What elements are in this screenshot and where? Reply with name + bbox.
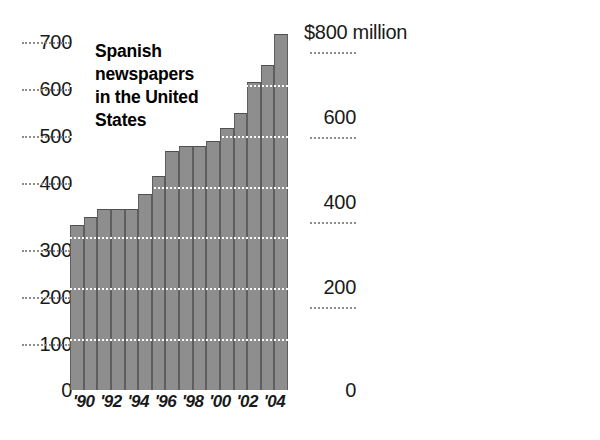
chart-title-line: newspapers [95,63,245,86]
bar [138,194,152,390]
x-axis-tick-label: '96 [152,392,179,412]
chart-title-line: Spanish [95,40,245,63]
y-axis-tick-label: 400 [186,191,356,214]
gridline-lead [22,344,70,346]
gridline [70,237,288,239]
bar [220,128,234,390]
bar [193,146,207,390]
gridline-lead [22,183,70,185]
gridline [70,187,288,189]
dual-bar-chart-figure: 700 600 500 400 300 200 100 0 Spanish ne… [0,0,600,440]
chart-panel-ad-revenue: $800 million 600 400 200 0 Ad revenue '9… [300,0,600,440]
y-axis-tick-label: 200 [186,276,356,299]
gridline-lead [22,136,70,138]
y-axis-tick-label: 0 [0,379,72,402]
bar [152,176,166,390]
x-axis-tick-label: '94 [125,392,152,412]
gridline-lead [22,250,70,252]
x-axis-tick-label: '92 [97,392,124,412]
gridline-lead [22,42,70,44]
bar [234,113,248,390]
y-axis-tick-label: 0 [186,379,356,402]
gridline [70,136,288,138]
y-axis-tick-label: $800 million [304,21,504,44]
gridline-lead [310,222,356,224]
bar [70,225,84,390]
bar [84,217,98,390]
gridline-lead [22,89,70,91]
bar [179,146,193,390]
x-axis-tick-label: '90 [70,392,97,412]
y-axis-tick-label: 600 [186,106,356,129]
chart-panel-spanish-newspapers: 700 600 500 400 300 200 100 0 Spanish ne… [0,0,310,440]
bar [206,141,220,390]
gridline-lead [310,137,356,139]
gridline-lead [310,52,356,54]
gridline-lead [22,297,70,299]
gridline-lead [310,307,356,309]
gridline [70,339,288,341]
